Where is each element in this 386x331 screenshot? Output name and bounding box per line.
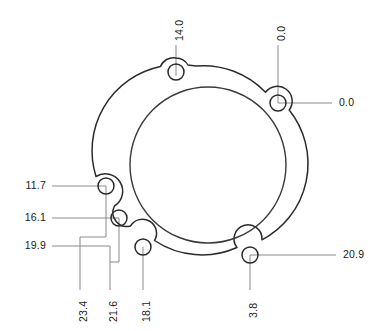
leader-line-bottom-21-6 (110, 218, 119, 290)
gasket-inner-bore (130, 87, 286, 243)
leader-lines-group (52, 45, 336, 290)
leader-line-bottom-23-4 (80, 186, 106, 290)
leader-line-left-lower (52, 246, 110, 262)
dim-label-top-right-0-0: 0.0 (275, 26, 287, 41)
technical-drawing-viewport: 14.0 0.0 0.0 11.7 16.1 19.9 20.9 23.4 21… (0, 0, 386, 331)
dim-label-16-1: 16.1 (25, 211, 46, 223)
gasket-body-group (92, 58, 308, 263)
gasket-drawing-canvas: 14.0 0.0 0.0 11.7 16.1 19.9 20.9 23.4 21… (0, 0, 386, 331)
dim-label-19-9: 19.9 (25, 239, 46, 251)
dim-label-right-0-0: 0.0 (339, 96, 354, 108)
dim-label-11-7: 11.7 (26, 179, 46, 191)
dim-label-21-6: 21.6 (107, 301, 119, 322)
dim-label-18-1: 18.1 (140, 301, 152, 322)
dim-label-3-8: 3.8 (247, 303, 259, 318)
dim-label-14-0: 14.0 (173, 20, 185, 41)
dim-label-20-9: 20.9 (343, 248, 364, 260)
dim-label-23-4: 23.4 (77, 301, 89, 322)
